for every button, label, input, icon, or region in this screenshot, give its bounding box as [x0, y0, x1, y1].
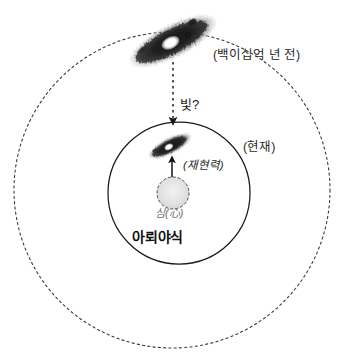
core-dashed-circle [157, 177, 189, 209]
label-alaya-consciousness: 아뢰야식 [132, 230, 183, 244]
label-mind: 심(心) [155, 208, 183, 219]
label-light-question: 빛? [180, 98, 199, 111]
diagram-canvas: (백이십억 년 전) (현재) 빛? (재현력) 심(心) 아뢰야식 [0, 0, 343, 363]
outer-galaxy [123, 5, 224, 78]
label-era-present: (현재) [243, 141, 275, 154]
label-era-past: (백이십억 년 전) [213, 49, 300, 62]
label-manifesting-power: (재현력) [183, 160, 224, 172]
